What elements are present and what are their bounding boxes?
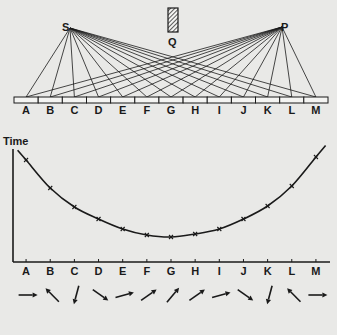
- mirror-label-e: E: [119, 104, 126, 116]
- x-label-i: I: [218, 265, 221, 277]
- phase-arrow-h: [189, 290, 205, 301]
- phase-arrow-m: [308, 292, 327, 297]
- phase-arrows: [19, 286, 328, 304]
- source-label: S: [62, 21, 69, 33]
- mirror-segment-b: [38, 97, 62, 103]
- time-curve: [18, 145, 326, 237]
- mirror-label-c: C: [70, 104, 78, 116]
- mirror-segment-a: [14, 97, 38, 103]
- phase-arrow-j: [238, 290, 254, 301]
- ray-s-i: [70, 28, 219, 97]
- mirror-strip: [14, 97, 328, 103]
- ray-g-p: [171, 27, 282, 97]
- x-label-b: B: [46, 265, 54, 277]
- curve-markers: [24, 155, 318, 239]
- mirror-label-k: K: [264, 104, 272, 116]
- mirror-label-h: H: [191, 104, 199, 116]
- mirror-segment-h: [183, 97, 207, 103]
- detector-label: P: [281, 21, 288, 33]
- ray-s-l: [70, 28, 292, 97]
- mirror-labels: ABCDEFGHIJKLM: [22, 104, 320, 116]
- x-axis-labels: ABCDEFGHIJKLM: [22, 265, 320, 277]
- ray-a-p: [26, 27, 282, 97]
- phase-arrow-c: [73, 286, 79, 304]
- phase-arrow-i: [212, 291, 230, 297]
- mirror-segment-f: [135, 97, 159, 103]
- phase-arrow-d: [93, 290, 109, 301]
- phase-arrow-k: [266, 286, 272, 304]
- arrowhead-icon: [128, 291, 134, 296]
- screen-label: Q: [168, 36, 177, 48]
- mirror-segment-g: [159, 97, 183, 103]
- phase-arrow-e: [116, 291, 134, 297]
- mirror-segment-m: [304, 97, 328, 103]
- mirror-segment-i: [207, 97, 231, 103]
- phase-arrow-a: [19, 292, 38, 297]
- x-label-c: C: [70, 265, 78, 277]
- x-label-h: H: [191, 265, 199, 277]
- curve-marker-b: [48, 186, 52, 190]
- phase-arrow-b: [46, 288, 59, 301]
- x-label-a: A: [22, 265, 30, 277]
- arrowhead-icon: [322, 292, 327, 297]
- mirror-label-d: D: [95, 104, 103, 116]
- curve-marker-a: [24, 158, 28, 162]
- mirror-label-m: M: [311, 104, 320, 116]
- arrowhead-icon: [266, 299, 271, 305]
- x-label-k: K: [264, 265, 272, 277]
- x-label-j: J: [240, 265, 246, 277]
- ray-s-m: [70, 28, 316, 97]
- figure-canvas: S P Q ABCDEFGHIJKLM Time ABCDEFGHIJKLM: [0, 0, 337, 335]
- curve-marker-l: [290, 184, 294, 188]
- mirror-label-g: G: [167, 104, 176, 116]
- x-label-f: F: [143, 265, 150, 277]
- ray-s-f: [70, 28, 147, 97]
- screen-q-block: [168, 8, 178, 32]
- x-label-g: G: [167, 265, 176, 277]
- phase-arrow-l: [287, 288, 300, 301]
- mirror-label-a: A: [22, 104, 30, 116]
- ray-s-b: [50, 28, 70, 97]
- mirror-label-i: I: [218, 104, 221, 116]
- mirror-segment-k: [256, 97, 280, 103]
- mirror-label-l: L: [288, 104, 295, 116]
- x-label-d: D: [95, 265, 103, 277]
- phase-arrow-f: [141, 290, 157, 301]
- x-label-l: L: [288, 265, 295, 277]
- light-reflection-figure: S P Q ABCDEFGHIJKLM Time ABCDEFGHIJKLM: [0, 0, 337, 335]
- mirror-label-f: F: [143, 104, 150, 116]
- ray-j-p: [243, 27, 282, 97]
- ray-b-p: [50, 27, 282, 97]
- mirror-label-j: J: [240, 104, 246, 116]
- mirror-segment-c: [62, 97, 86, 103]
- mirror-segment-j: [231, 97, 255, 103]
- ray-s-c: [70, 28, 74, 97]
- arrowhead-icon: [33, 292, 38, 297]
- mirror-label-b: B: [46, 104, 54, 116]
- arrowhead-icon: [225, 291, 231, 296]
- x-label-m: M: [311, 265, 320, 277]
- arrowhead-icon: [73, 299, 78, 305]
- y-axis-label: Time: [3, 135, 28, 147]
- ray-d-p: [99, 27, 282, 97]
- mirror-segment-e: [111, 97, 135, 103]
- curve-marker-m: [314, 155, 318, 159]
- mirror-segment-d: [87, 97, 111, 103]
- phase-arrow-g: [167, 288, 179, 303]
- mirror-segment-l: [280, 97, 304, 103]
- x-label-e: E: [119, 265, 126, 277]
